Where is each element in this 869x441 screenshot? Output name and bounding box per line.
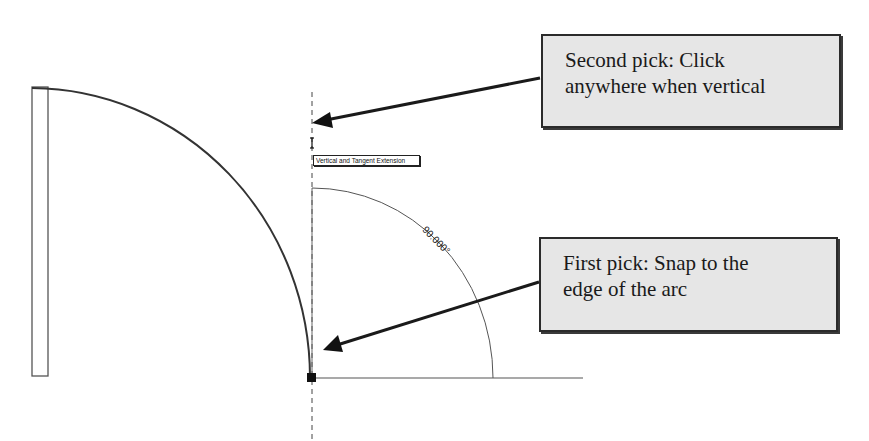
second-pick-line2: anywhere when vertical [565,73,839,99]
first-pick-callout: First pick: Snap to the edge of the arc [539,237,838,332]
vertical-cursor-icon [310,138,314,148]
door-panel [32,87,48,376]
second-pick-arrowhead [312,112,333,128]
snap-grip-point[interactable] [307,373,316,382]
second-pick-arrow-line [326,78,540,120]
snap-tooltip: Vertical and Tangent Extension [313,155,420,166]
first-pick-line2: edge of the arc [563,276,836,302]
second-pick-line1: Second pick: Click [565,47,839,73]
first-pick-line1: First pick: Snap to the [563,250,836,276]
door-swing-arc [32,88,310,378]
second-pick-callout: Second pick: Click anywhere when vertica… [541,34,841,128]
first-pick-arrowhead [323,335,343,352]
first-pick-arrow-line [337,282,539,345]
